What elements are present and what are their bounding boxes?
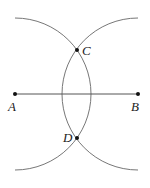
point-a xyxy=(13,92,17,96)
label-b: B xyxy=(131,99,139,114)
label-d: D xyxy=(62,130,73,145)
construction-diagram: A B C D xyxy=(0,0,150,188)
point-b xyxy=(136,92,140,96)
label-a: A xyxy=(7,99,16,114)
point-d xyxy=(75,136,79,140)
point-c xyxy=(75,48,79,52)
label-c: C xyxy=(82,43,91,58)
